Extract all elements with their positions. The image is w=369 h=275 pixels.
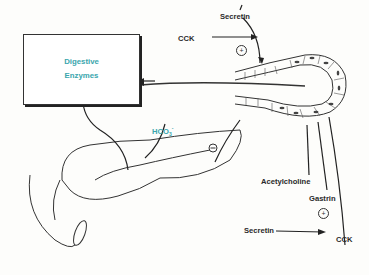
gastrin-label: Gastrin: [309, 194, 336, 203]
box-label-line1: Digestive: [24, 57, 139, 66]
stimulation-plus-icon: +: [236, 45, 247, 56]
acetylcholine-label: Acetylcholine: [261, 177, 310, 186]
box-label-line2: Enzymes: [24, 71, 139, 80]
digestive-enzymes-box: Digestive Enzymes: [23, 34, 140, 105]
hco-sup: -: [172, 125, 174, 131]
cck-label-bottom: CCK: [336, 235, 352, 244]
acinus-illustration: [140, 55, 346, 118]
secretin-label-bottom: Secretin: [244, 226, 274, 235]
secretin-label-top: Secretin: [220, 12, 250, 21]
bicarbonate-label: HCO3-: [152, 125, 173, 137]
cck-label-top: CCK: [178, 34, 194, 43]
hco-sub: 3: [169, 131, 172, 137]
stimulation-plus-icon-bottom: +: [318, 208, 329, 219]
hco-base: HCO: [152, 127, 169, 136]
